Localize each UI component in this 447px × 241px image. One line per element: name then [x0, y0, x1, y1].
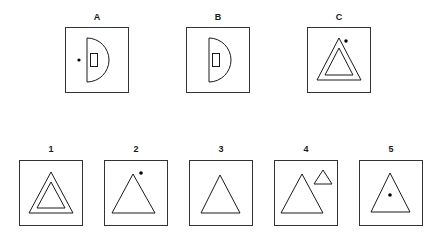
option-cell-3-label: 3 [189, 144, 253, 155]
option-cell-1-box[interactable] [19, 160, 83, 226]
option-cell-2-box[interactable] [104, 160, 168, 226]
options-row: 1 2 3 [0, 130, 447, 241]
stem-cell-b-box[interactable] [186, 27, 250, 93]
nested-triangle-with-dot-icon [308, 28, 370, 92]
option-cell-4-box[interactable] [274, 160, 338, 226]
option-cell-5-label: 5 [359, 144, 423, 155]
option-cell-3-box[interactable] [189, 160, 253, 226]
option-cell-1-label: 1 [19, 144, 83, 155]
triangle-with-small-triangle-icon [275, 161, 337, 225]
stem-cell-c-box[interactable] [307, 27, 371, 93]
stem-cell-b-label: B [186, 12, 250, 23]
nested-triangle-icon [20, 161, 82, 225]
half-disc-with-bar-icon [187, 28, 249, 92]
option-cell-2-label: 2 [104, 144, 168, 155]
plain-triangle-icon [190, 161, 252, 225]
analogy-puzzle: A B C [0, 0, 447, 241]
half-disc-with-bar-and-dot-icon [66, 28, 128, 92]
stem-cell-c-label: C [307, 12, 371, 23]
option-cell-5-box[interactable] [359, 160, 423, 226]
stem-cell-a-label: A [65, 12, 129, 23]
triangle-with-outside-dot-icon [105, 161, 167, 225]
stem-row: A B C [0, 0, 447, 125]
triangle-with-inside-dot-icon [360, 161, 422, 225]
stem-cell-a-box[interactable] [65, 27, 129, 93]
option-cell-4-label: 4 [274, 144, 338, 155]
